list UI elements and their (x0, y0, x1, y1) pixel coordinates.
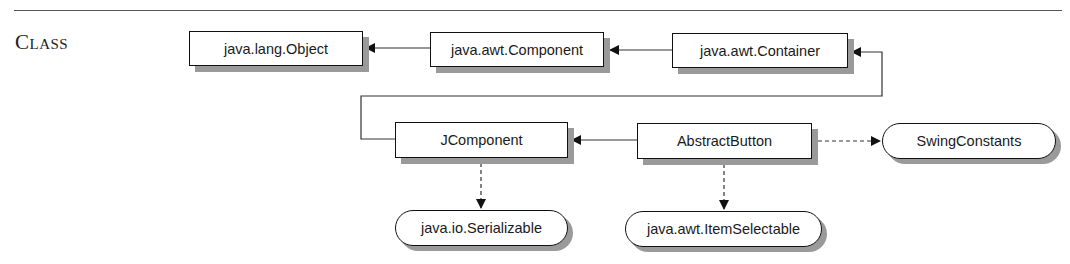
class-node-abstractbutton[interactable]: AbstractButton (637, 123, 812, 159)
interface-node-serializable[interactable]: java.io.Serializable (395, 210, 568, 246)
class-node-container[interactable]: java.awt.Container (672, 33, 848, 68)
class-node-component[interactable]: java.awt.Component (430, 32, 604, 67)
class-node-jcomponent[interactable]: JComponent (395, 122, 568, 158)
interface-label: java.awt.ItemSelectable (647, 221, 800, 237)
class-label: java.awt.Container (700, 43, 820, 59)
class-label: JComponent (440, 132, 522, 148)
class-label: AbstractButton (677, 133, 772, 149)
interface-node-swingconstants[interactable]: SwingConstants (882, 123, 1056, 159)
class-label: java.lang.Object (224, 41, 328, 57)
class-node-object[interactable]: java.lang.Object (189, 31, 363, 66)
class-label: java.awt.Component (451, 42, 583, 58)
interface-node-itemselectable[interactable]: java.awt.ItemSelectable (625, 211, 822, 247)
interface-label: SwingConstants (917, 133, 1022, 149)
interface-label: java.io.Serializable (421, 220, 542, 236)
